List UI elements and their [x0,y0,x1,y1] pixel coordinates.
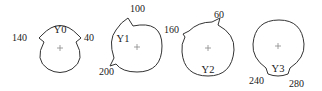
shape-y0-name: Y0 [54,24,67,35]
shape-y0: Y0 140 40 [12,24,94,73]
shape-y0-label-40: 40 [84,32,94,43]
shape-y2: Y2 60 160 [164,9,234,76]
shape-y1-label-200: 200 [99,66,114,77]
shape-y3: Y3 240 280 [249,20,304,89]
shape-y3-label-280: 280 [289,78,304,89]
shape-y2-label-160: 160 [164,24,179,35]
shape-y2-name: Y2 [202,64,215,75]
shape-y0-label-140: 140 [12,32,27,43]
shape-y1-outline [110,18,162,72]
shape-y1: Y1 100 200 [99,3,162,77]
shape-y1-name: Y1 [117,33,130,44]
shape-y2-label-60: 60 [214,9,224,20]
shape-y3-label-240: 240 [249,75,264,86]
shape-y3-name: Y3 [272,63,285,74]
diagram-canvas: Y0 140 40 Y1 100 200 Y2 60 160 Y3 240 28… [0,0,322,91]
shape-y1-label-100: 100 [130,3,145,14]
